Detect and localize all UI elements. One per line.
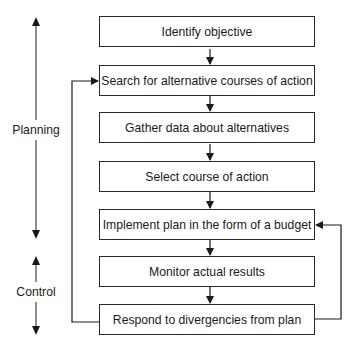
step-implement-plan: Implement plan in the form of a budget [99, 209, 315, 240]
step-label: Select course of action [145, 170, 268, 184]
step-label: Respond to divergencies from plan [113, 313, 301, 327]
step-label: Gather data about alternatives [125, 121, 289, 135]
step-select-course: Select course of action [99, 161, 315, 192]
step-label: Identify objective [162, 25, 253, 39]
step-monitor-results: Monitor actual results [99, 256, 315, 287]
step-label: Monitor actual results [149, 265, 265, 279]
arrow-down-icon [32, 230, 40, 239]
feedback-loop-left [72, 81, 99, 322]
step-respond-divergencies: Respond to divergencies from plan [99, 304, 315, 335]
step-search-alternatives: Search for alternative courses of action [99, 65, 315, 96]
arrow-down-icon [32, 326, 40, 335]
arrow-up-icon [32, 256, 40, 265]
step-identify-objective: Identify objective [99, 16, 315, 47]
phase-label-control: Control [16, 284, 56, 300]
feedback-loop-right [315, 225, 341, 319]
step-label: Implement plan in the form of a budget [103, 218, 312, 232]
arrow-up-icon [32, 17, 40, 26]
step-gather-data: Gather data about alternatives [99, 112, 315, 143]
step-label: Search for alternative courses of action [101, 74, 312, 88]
planning-control-diagram: Identify objective Search for alternativ… [0, 0, 352, 347]
phase-label-planning: Planning [12, 122, 60, 138]
